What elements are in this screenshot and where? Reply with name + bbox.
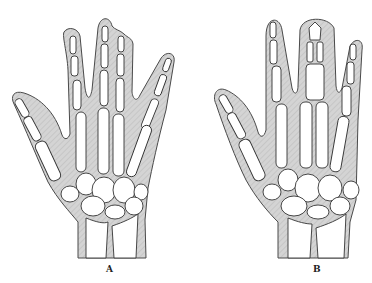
panel-label-a: A xyxy=(106,264,113,274)
hand-diagram xyxy=(0,0,372,283)
panel-label-b: B xyxy=(313,264,321,274)
hand-b xyxy=(214,19,362,258)
hand-a xyxy=(12,19,174,258)
